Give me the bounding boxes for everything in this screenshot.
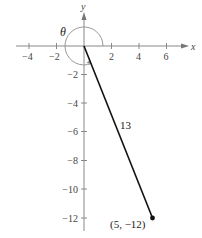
y-tick-label: −4 bbox=[67, 98, 78, 109]
point-label: (5, −12) bbox=[110, 218, 146, 231]
y-axis-label: y bbox=[80, 1, 86, 12]
terminal-point bbox=[150, 216, 155, 221]
y-tick-label: −12 bbox=[62, 213, 78, 224]
x-tick-label: −4 bbox=[22, 51, 33, 62]
x-tick-label: 2 bbox=[109, 51, 114, 62]
y-tick-label: −6 bbox=[67, 126, 78, 137]
y-tick-label: −2 bbox=[67, 69, 78, 80]
x-tick-label: −2 bbox=[49, 51, 60, 62]
y-tick-label: −8 bbox=[67, 155, 78, 166]
y-axis-arrow-icon bbox=[82, 12, 87, 20]
x-axis-arrow-icon bbox=[181, 44, 189, 49]
x-axis-label: x bbox=[190, 41, 196, 52]
terminal-side-segment bbox=[84, 46, 153, 218]
angle-diagram: x y −4 −2 2 4 6 −2 −4 −6 −8 −10 −12 θ 13… bbox=[0, 0, 202, 238]
y-tick-label: −10 bbox=[62, 184, 78, 195]
theta-label: θ bbox=[60, 25, 66, 39]
segment-length-label: 13 bbox=[120, 119, 132, 131]
x-tick-label: 6 bbox=[164, 51, 169, 62]
x-tick-label: 4 bbox=[136, 51, 141, 62]
